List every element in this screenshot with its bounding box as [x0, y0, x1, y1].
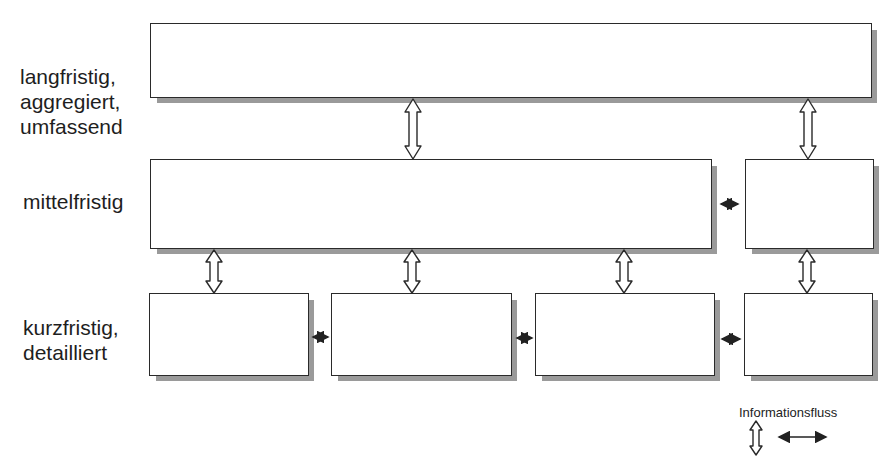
vertical-double-arrow-icon	[616, 250, 632, 293]
vertical-double-arrow-icon	[799, 250, 815, 293]
arrows-layer	[0, 0, 896, 466]
vertical-double-arrow-icon	[404, 250, 420, 293]
legend-vertical-arrow-icon	[750, 421, 762, 455]
vertical-double-arrow-icon	[800, 99, 816, 159]
legend-title: Informationsfluss	[739, 405, 837, 420]
vertical-double-arrow-icon	[206, 250, 222, 293]
vertical-double-arrow-icon	[405, 99, 421, 159]
